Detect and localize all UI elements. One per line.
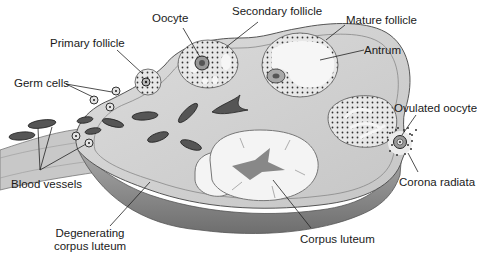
label-mature-follicle: Mature follicle xyxy=(346,14,417,27)
label-corpus-luteum: Corpus luteum xyxy=(300,233,375,246)
label-blood-vessels: Blood vessels xyxy=(11,178,82,191)
corpus-luteum xyxy=(210,130,318,201)
label-corona-radiata: Corona radiata xyxy=(399,176,475,189)
label-primary-follicle: Primary follicle xyxy=(50,37,125,50)
label-antrum: Antrum xyxy=(364,44,401,57)
label-germ-cells: Germ cells xyxy=(14,77,69,90)
label-secondary-follicle: Secondary follicle xyxy=(232,5,322,18)
mature-follicle xyxy=(262,33,338,97)
label-degenerating-corpus-luteum-2: corpus luteum xyxy=(42,240,138,253)
label-oocyte: Oocyte xyxy=(152,12,188,25)
primary-follicle xyxy=(135,69,161,95)
label-degenerating-corpus-luteum-1: Degenerating xyxy=(42,227,138,240)
label-ovulated-oocyte: Ovulated oocyte xyxy=(394,102,477,115)
secondary-follicle xyxy=(178,40,238,88)
